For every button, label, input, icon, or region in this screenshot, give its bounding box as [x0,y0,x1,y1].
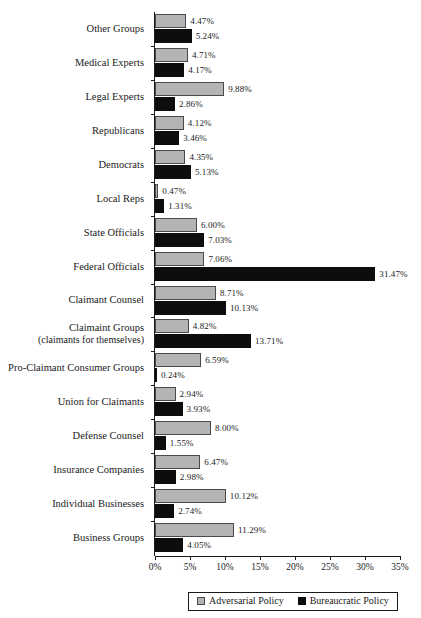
bar-value-label: 31.47% [379,269,407,279]
bar-value-label: 4.47% [190,16,214,26]
bar-value-label: 2.98% [180,472,204,482]
bar-bureaucratic [155,233,204,247]
bar-bureaucratic [155,131,179,145]
bar-group: 8.00%1.55% [155,419,400,453]
x-axis-tick [260,556,261,560]
x-axis-tick-label: 5% [170,562,210,573]
bar-group: 2.94%3.93% [155,385,400,419]
bar-value-label: 2.74% [178,506,202,516]
bar-row: 4.47% [155,14,214,28]
category-label-text: Union for Claimants [58,396,144,407]
bar-group: 6.47%2.98% [155,453,400,487]
bar-adversarial [155,455,200,469]
category-label: Individual Businesses [0,498,150,510]
y-axis-tick [151,250,155,251]
category-label-text: Defense Counsel [73,430,144,441]
bar-group: 4.71%4.17% [155,46,400,80]
category-label: Local Reps [0,193,150,205]
x-axis-tick-label: 10% [205,562,245,573]
bar-value-label: 4.12% [188,118,212,128]
category-label-text: Local Reps [96,193,144,204]
legend-item-adversarial: Adversarial Policy [197,595,284,607]
bar-row: 5.13% [155,165,219,179]
bar-bureaucratic [155,63,184,77]
bar-adversarial [155,489,226,503]
bar-bureaucratic [155,402,183,416]
bar-value-label: 5.24% [196,31,220,41]
bar-value-label: 4.71% [192,50,216,60]
category-label-text: Insurance Companies [53,464,144,475]
x-axis-tick-label: 15% [240,562,280,573]
category-label-text: Legal Experts [85,91,144,102]
bar-row: 13.71% [155,334,283,348]
category-label-text: Democrats [99,159,144,170]
bar-row: 8.00% [155,421,239,435]
y-axis-tick [151,148,155,149]
category-label-text: Republicans [92,125,144,136]
category-label-text: Other Groups [87,23,144,34]
bar-adversarial [155,116,184,130]
bar-value-label: 1.55% [170,438,194,448]
category-label-text: Pro-Claimant Consumer Groups [8,362,144,373]
bar-row: 5.24% [155,29,219,43]
category-label: Democrats [0,159,150,171]
category-label: State Officials [0,227,150,239]
x-axis-tick-label: 35% [380,562,420,573]
horizontal-bar-chart: 4.47%5.24%4.71%4.17%9.88%2.86%4.12%3.46%… [0,0,421,618]
bar-bureaucratic [155,97,175,111]
bar-row: 4.35% [155,150,213,164]
chart-legend: Adversarial Policy Bureaucratic Policy [188,592,398,611]
bar-value-label: 6.59% [205,355,229,365]
y-axis-tick [151,385,155,386]
bar-adversarial [155,14,186,28]
bar-group: 6.59%0.24% [155,351,400,385]
bar-bureaucratic [155,538,183,552]
category-label: Claimant Counsel [0,294,150,306]
category-label-text: Claimaint Groups [69,322,144,333]
category-label-text: Business Groups [73,532,144,543]
bar-value-label: 8.00% [215,423,239,433]
bar-adversarial [155,523,234,537]
bar-value-label: 4.05% [187,540,211,550]
bar-value-label: 0.47% [162,186,186,196]
bar-adversarial [155,421,211,435]
bar-value-label: 7.03% [208,235,232,245]
bar-group: 7.06%31.47% [155,250,400,284]
bar-adversarial [155,252,204,266]
bar-group: 4.35%5.13% [155,148,400,182]
bar-value-label: 4.17% [188,65,212,75]
x-axis-tick-label: 25% [310,562,350,573]
category-label-text: Claimant Counsel [68,294,144,305]
bar-bureaucratic [155,29,192,43]
bar-row: 1.55% [155,436,194,450]
bar-adversarial [155,184,158,198]
category-label: Insurance Companies [0,464,150,476]
bar-group: 8.71%10.13% [155,284,400,318]
bar-row: 0.24% [155,368,185,382]
legend-swatch-adversarial-icon [197,597,205,605]
bar-adversarial [155,48,188,62]
bar-row: 2.74% [155,504,202,518]
category-label: Medical Experts [0,57,150,69]
category-label: Defense Counsel [0,430,150,442]
bar-value-label: 2.86% [179,99,203,109]
bar-row: 11.29% [155,523,266,537]
category-label: Other Groups [0,23,150,35]
bar-bureaucratic [155,301,226,315]
bar-group: 11.29%4.05% [155,521,400,555]
bar-value-label: 9.88% [228,84,252,94]
bar-value-label: 10.13% [230,303,258,313]
y-axis-tick [151,487,155,488]
bar-row: 7.06% [155,252,232,266]
y-axis-tick [151,216,155,217]
y-axis-tick [151,284,155,285]
x-axis-tick-label: 20% [275,562,315,573]
bar-bureaucratic [155,470,176,484]
x-axis-tick [190,556,191,560]
bar-adversarial [155,150,185,164]
bar-bureaucratic [155,504,174,518]
bar-value-label: 4.35% [189,152,213,162]
bar-row: 10.13% [155,301,258,315]
bar-value-label: 7.06% [208,254,232,264]
bar-row: 2.98% [155,470,204,484]
